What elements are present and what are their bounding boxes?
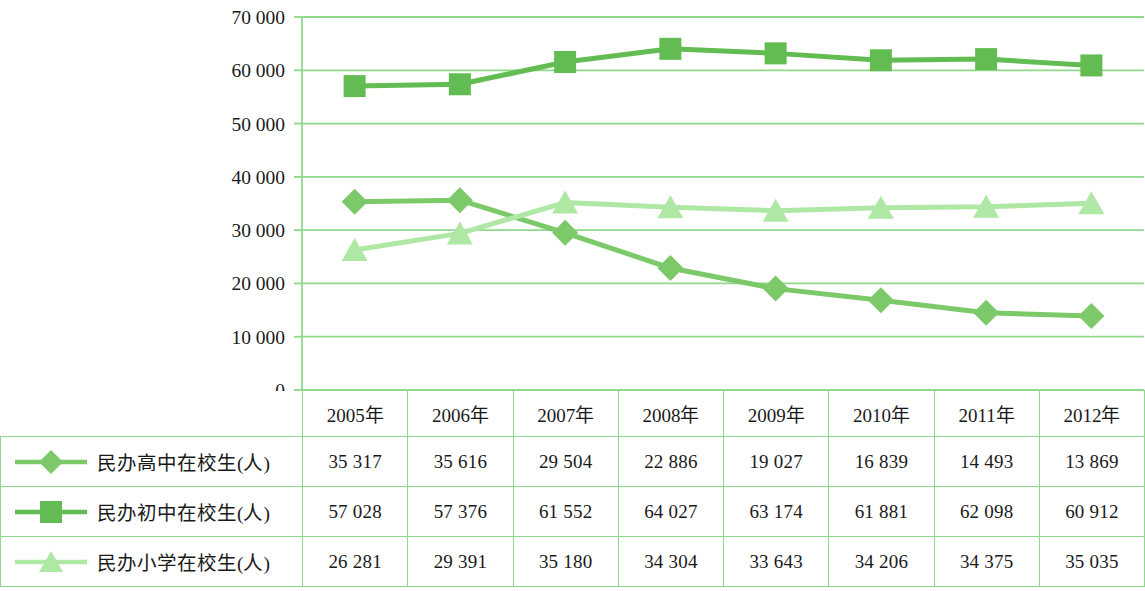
square-marker-icon [15,499,87,525]
column-header-4: 2009年 [724,391,829,437]
data-point-marker [657,255,683,281]
y-tick-label: 30 000 [231,220,285,241]
y-tick-label: 10 000 [231,327,285,348]
table-cell: 35 616 [408,437,513,487]
table-cell: 61 552 [513,487,618,537]
legend-swatch [15,449,87,475]
data-point-marker [659,38,681,60]
data-point-marker [1078,303,1104,329]
table-cell: 61 881 [829,487,934,537]
table-cell: 62 098 [934,487,1039,537]
data-point-marker [870,49,892,71]
legend-swatch [15,499,87,525]
legend-cell-1: 民办初中在校生(人) [1,487,303,537]
table-header-row: 2005年2006年2007年2008年2009年2010年2011年2012年 [1,391,1145,437]
data-point-marker [973,300,999,326]
table-cell: 19 027 [724,437,829,487]
data-point-marker [447,187,473,213]
y-axis-line [294,17,302,390]
legend-label: 民办小学在校生(人) [97,547,270,576]
table-cell: 35 035 [1039,537,1144,587]
data-point-marker [975,48,997,70]
data-table: 2005年2006年2007年2008年2009年2010年2011年2012年… [0,390,1145,587]
table-cell: 57 376 [408,487,513,537]
table-cell: 34 304 [618,537,723,587]
table-cell: 34 375 [934,537,1039,587]
y-tick-label: 50 000 [231,114,285,135]
legend-cell-2: 民办小学在校生(人) [1,537,303,587]
data-point-marker [1080,54,1102,76]
table-row: 民办小学在校生(人)26 28129 39135 18034 30433 643… [1,537,1145,587]
legend-swatch [15,549,87,575]
table-cell: 16 839 [829,437,934,487]
y-tick-label: 70 000 [231,7,285,28]
table-cell: 64 027 [618,487,723,537]
line-chart: 010 00020 00030 00040 00050 00060 00070 … [0,0,1144,391]
table-header: 2005年2006年2007年2008年2009年2010年2011年2012年 [1,391,1145,437]
table-cell: 35 180 [513,537,618,587]
y-tick-label: 60 000 [231,60,285,81]
table-cell: 14 493 [934,437,1039,487]
data-point-marker [449,73,471,95]
table-cell: 29 504 [513,437,618,487]
table-body: 民办高中在校生(人)35 31735 61629 50422 88619 027… [1,437,1145,587]
data-point-marker [344,75,366,97]
column-header-5: 2010年 [829,391,934,437]
column-header-7: 2012年 [1039,391,1144,437]
data-point-marker [765,42,787,64]
triangle-marker-icon [15,549,87,575]
table-cell: 22 886 [618,437,723,487]
table-cell: 35 317 [303,437,408,487]
table-cell: 29 391 [408,537,513,587]
y-tick-label: 20 000 [231,273,285,294]
column-header-2: 2007年 [513,391,618,437]
table-row: 民办初中在校生(人)57 02857 37661 55264 02763 174… [1,487,1145,537]
data-point-marker [868,287,894,313]
column-header-3: 2008年 [618,391,723,437]
column-header-6: 2011年 [934,391,1039,437]
table-cell: 33 643 [724,537,829,587]
table-row: 民办高中在校生(人)35 31735 61629 50422 88619 027… [1,437,1145,487]
column-header-0: 2005年 [303,391,408,437]
table-cell: 34 206 [829,537,934,587]
table-corner-cell [1,391,303,437]
column-header-1: 2006年 [408,391,513,437]
table-cell: 63 174 [724,487,829,537]
table-cell: 26 281 [303,537,408,587]
y-tick-label: 40 000 [231,167,285,188]
series-layer [342,38,1105,329]
legend-label: 民办初中在校生(人) [97,497,270,526]
legend-label: 民办高中在校生(人) [97,447,270,476]
chart-canvas: 010 00020 00030 00040 00050 00060 00070 … [0,0,1144,391]
data-point-marker [554,51,576,73]
data-point-marker [763,276,789,302]
legend-cell-0: 民办高中在校生(人) [1,437,303,487]
table-cell: 60 912 [1039,487,1144,537]
data-point-marker [552,220,578,246]
series-square [344,38,1103,97]
table-cell: 13 869 [1039,437,1144,487]
y-axis-tick-labels: 010 00020 00030 00040 00050 00060 00070 … [231,7,285,391]
table-cell: 57 028 [303,487,408,537]
diamond-marker-icon [15,449,87,475]
data-point-marker [342,189,368,215]
